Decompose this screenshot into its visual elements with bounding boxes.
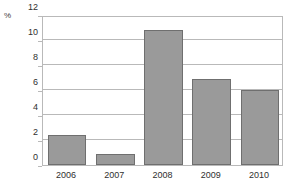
x-axis-tick-label: 2010 — [235, 170, 283, 181]
bar — [144, 30, 183, 165]
x-axis-tick-label: 2008 — [138, 170, 186, 181]
bar — [48, 135, 87, 165]
y-axis-tick-mark — [38, 66, 42, 67]
y-axis-tick-label: 10 — [16, 28, 38, 37]
y-axis-tick-mark — [38, 166, 42, 167]
bar — [192, 79, 231, 165]
x-axis-tick-label: 2009 — [187, 170, 235, 181]
bar-slot — [241, 17, 280, 165]
x-axis-tick-labels: 20062007200820092010 — [42, 170, 283, 184]
bar-slot — [192, 17, 231, 165]
bar — [241, 90, 280, 165]
y-axis-tick-label: 0 — [16, 153, 38, 162]
x-axis-tick-label: 2006 — [42, 170, 90, 181]
plot-area — [42, 16, 283, 166]
y-axis-tick-label: 2 — [16, 128, 38, 137]
y-axis-unit-label: % — [4, 11, 11, 20]
y-axis-tick-mark — [38, 91, 42, 92]
y-axis-tick-mark — [38, 41, 42, 42]
bar-slot — [96, 17, 135, 165]
y-axis-tick-mark — [38, 116, 42, 117]
y-axis-tick-label: 8 — [16, 53, 38, 62]
y-axis-tick-label: 12 — [16, 3, 38, 12]
x-axis-tick-label: 2007 — [90, 170, 138, 181]
y-axis-tick-label: 6 — [16, 78, 38, 87]
y-axis-tick-mark — [38, 16, 42, 17]
y-axis-tick-label: 4 — [16, 103, 38, 112]
bar-slot — [48, 17, 87, 165]
bar — [96, 154, 135, 165]
bar-chart: % 024681012 20062007200820092010 — [0, 0, 300, 191]
y-axis-tick-labels: 024681012 — [14, 16, 38, 166]
y-axis-tick-mark — [38, 141, 42, 142]
bar-slot — [144, 17, 183, 165]
